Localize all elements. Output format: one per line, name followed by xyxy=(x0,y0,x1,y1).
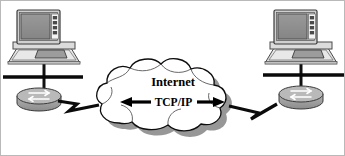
left-site-group xyxy=(3,10,99,111)
monitor-screen xyxy=(21,14,50,39)
router-top xyxy=(17,88,61,104)
left-wan-zigzag-link xyxy=(58,101,99,111)
right-router xyxy=(279,86,323,109)
desk-edge xyxy=(265,62,337,65)
monitor-button-icon xyxy=(310,21,314,24)
network-diagram-canvas: Internet TCP/IP xyxy=(0,0,345,156)
cloud-internet-label: Internet xyxy=(151,75,196,89)
right-workstation xyxy=(265,10,337,64)
monitor-screen xyxy=(278,14,307,39)
monitor-button-icon xyxy=(310,26,314,29)
router-top xyxy=(279,86,323,102)
monitor-button-icon xyxy=(310,31,314,34)
keyboard xyxy=(292,50,324,58)
desk-edge xyxy=(8,62,80,65)
cloud-shape xyxy=(97,59,226,131)
monitor-button-icon xyxy=(53,26,57,29)
right-wan-zigzag-link xyxy=(229,104,277,119)
monitor-button-icon xyxy=(53,16,57,19)
keyboard xyxy=(35,50,67,58)
network-topology-diagram: Internet TCP/IP xyxy=(1,1,345,156)
internet-cloud: Internet TCP/IP xyxy=(97,59,232,137)
left-workstation xyxy=(8,10,80,64)
monitor-button-icon xyxy=(53,21,57,24)
left-router xyxy=(17,88,61,111)
cloud-tcpip-label: TCP/IP xyxy=(155,96,193,108)
monitor-button-icon xyxy=(53,31,57,34)
right-site-group xyxy=(229,10,344,119)
monitor-button-icon xyxy=(310,16,314,19)
